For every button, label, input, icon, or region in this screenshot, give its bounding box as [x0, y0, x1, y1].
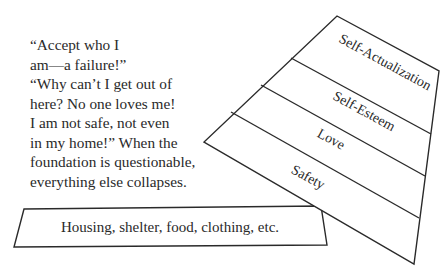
hierarchy-diagram: Housing, shelter, food, clothing, etc. S…	[0, 0, 447, 272]
foundation-block: Housing, shelter, food, clothing, etc.	[14, 206, 327, 247]
foundation-label: Housing, shelter, food, clothing, etc.	[61, 219, 279, 235]
